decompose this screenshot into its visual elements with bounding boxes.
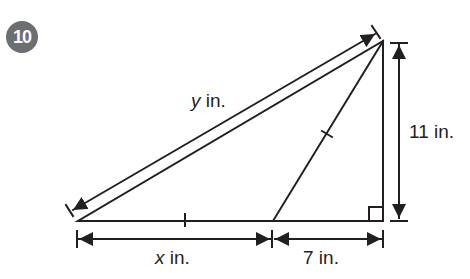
base-left-variable: x (155, 247, 165, 268)
height-label: 11 in. (409, 121, 454, 143)
geometry-figure: 10 (0, 0, 470, 279)
triangle-diagram (0, 0, 470, 279)
hypotenuse-unit: in. (201, 90, 226, 111)
base-left-label: x in. (155, 247, 190, 269)
base-right-label: 7 in. (303, 247, 339, 269)
hypotenuse-label: y in. (191, 90, 226, 112)
base-left-unit: in. (165, 247, 190, 268)
right-angle-marker (369, 207, 383, 221)
inner-segment (273, 41, 383, 221)
hypotenuse-dimension-arrow (73, 34, 375, 210)
outer-right-triangle (78, 41, 383, 221)
hypotenuse-arrow-stop-left (66, 205, 73, 216)
hypotenuse-variable: y (191, 90, 201, 111)
